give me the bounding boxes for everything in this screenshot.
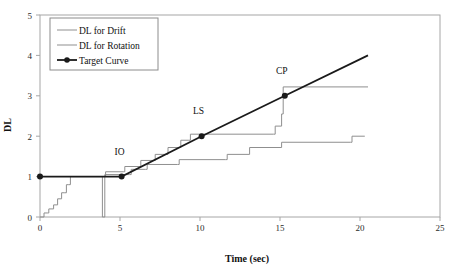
legend-label: DL for Rotation [79,41,140,51]
y-tick-label: 3 [28,91,33,101]
target-curve-marker [37,174,43,180]
target-curve-marker [119,174,125,180]
series-dl-for-rotation [102,87,368,177]
x-tick-label: 0 [38,223,43,233]
y-axis-title: DL [2,118,13,132]
y-tick-label: 4 [28,51,33,61]
y-tick-label: 2 [28,132,33,142]
annotation-cp: CP [276,66,288,76]
legend-label: Target Curve [79,56,129,66]
point-annotations: IOLSCP [115,66,288,157]
chart-legend[interactable]: DL for DriftDL for RotationTarget Curve [50,18,158,70]
y-tick-label: 1 [28,172,33,182]
target-curve-marker [199,133,205,139]
legend-label: DL for Drift [79,26,126,36]
y-tick-label: 5 [28,11,33,21]
target-curve-marker [282,93,288,99]
legend-marker [64,57,70,63]
chart-container: 0510152025012345 IOLSCP DL for DriftDL f… [0,0,460,271]
dl-vs-time-chart: 0510152025012345 IOLSCP DL for DriftDL f… [0,0,460,271]
data-point-markers [37,93,288,180]
x-tick-label: 10 [196,223,206,233]
annotation-ls: LS [193,106,204,116]
y-tick-label: 0 [28,213,33,223]
x-tick-label: 20 [356,223,366,233]
x-tick-label: 5 [118,223,123,233]
x-tick-label: 25 [436,223,446,233]
x-axis-title: Time (sec) [225,253,269,265]
x-tick-label: 15 [276,223,286,233]
annotation-io: IO [115,147,125,157]
